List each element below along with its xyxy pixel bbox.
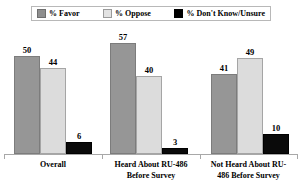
bar-group-overall: 50 44 6 [14, 26, 94, 154]
category-label-overall-line1: Overall [4, 160, 102, 171]
legend-entry-oppose: % Oppose [103, 9, 151, 18]
bar-value-not-heard-dont-know: 10 [263, 123, 289, 133]
bar-chart: % Favor % Oppose % Don't Know/Unsure 50 … [0, 0, 302, 191]
bar-value-overall-oppose: 44 [40, 57, 66, 67]
legend-label-favor: % Favor [49, 9, 79, 18]
x-axis-tick-1 [102, 154, 103, 159]
bar-group-overall-bars: 50 44 6 [14, 26, 94, 154]
x-axis-category-labels: Overall Heard About RU-486 Before Survey… [0, 160, 302, 191]
bar-not-heard-favor [211, 74, 237, 154]
legend-label-dont-know: % Don't Know/Unsure [186, 9, 265, 18]
x-axis-tick-end [297, 154, 298, 159]
bar-slot-overall-dont-know: 6 [66, 26, 92, 154]
category-label-not-heard-line2: 486 Before Survey [200, 171, 297, 182]
bar-value-heard-favor: 57 [110, 32, 136, 42]
category-label-not-heard: Not Heard About RU- 486 Before Survey [200, 160, 297, 181]
bar-slot-overall-oppose: 44 [40, 26, 66, 154]
x-axis-tick-2 [200, 154, 201, 159]
legend-swatch-favor-icon [37, 9, 46, 18]
category-label-overall: Overall [4, 160, 102, 171]
bar-value-heard-oppose: 40 [136, 65, 162, 75]
bar-value-heard-dont-know: 3 [162, 137, 188, 147]
legend-swatch-dont-know-icon [174, 9, 183, 18]
x-axis-line [4, 154, 298, 155]
bar-overall-oppose [40, 68, 66, 154]
bar-slot-not-heard-favor: 41 [211, 26, 237, 154]
bar-not-heard-oppose [237, 58, 263, 154]
bar-group-not-heard: 41 49 10 [211, 26, 291, 154]
chart-legend: % Favor % Oppose % Don't Know/Unsure [31, 6, 271, 21]
bar-value-not-heard-favor: 41 [211, 63, 237, 73]
category-label-heard: Heard About RU-486 Before Survey [102, 160, 200, 181]
category-label-not-heard-line1: Not Heard About RU- [200, 160, 297, 171]
bar-overall-favor [14, 56, 40, 154]
legend-entry-favor: % Favor [37, 9, 79, 18]
category-label-heard-line1: Heard About RU-486 [102, 160, 200, 171]
plot-area: 50 44 6 57 40 [0, 26, 302, 154]
legend-label-oppose: % Oppose [115, 9, 151, 18]
bar-value-not-heard-oppose: 49 [237, 47, 263, 57]
bar-heard-oppose [136, 76, 162, 154]
bar-value-overall-favor: 50 [14, 45, 40, 55]
legend-entry-dont-know: % Don't Know/Unsure [174, 9, 265, 18]
bar-group-heard-bars: 57 40 3 [110, 26, 190, 154]
bar-slot-not-heard-dont-know: 10 [263, 26, 289, 154]
bar-overall-dont-know [66, 142, 92, 154]
bar-heard-favor [110, 43, 136, 154]
bar-group-not-heard-bars: 41 49 10 [211, 26, 291, 154]
bar-slot-heard-oppose: 40 [136, 26, 162, 154]
bar-value-overall-dont-know: 6 [66, 131, 92, 141]
bar-group-heard: 57 40 3 [110, 26, 190, 154]
bar-slot-heard-favor: 57 [110, 26, 136, 154]
bar-slot-not-heard-oppose: 49 [237, 26, 263, 154]
bar-slot-heard-dont-know: 3 [162, 26, 188, 154]
legend-swatch-oppose-icon [103, 9, 112, 18]
bar-slot-overall-favor: 50 [14, 26, 40, 154]
x-axis-tick-start [4, 154, 5, 159]
bar-not-heard-dont-know [263, 134, 289, 154]
category-label-heard-line2: Before Survey [102, 171, 200, 182]
